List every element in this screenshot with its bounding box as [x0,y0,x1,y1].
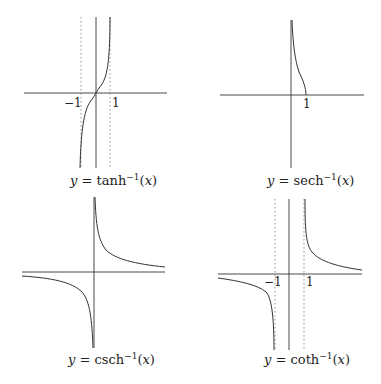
caption-tanh-inverse: y = tanh−1(x) [69,172,157,188]
csch-inverse-curve-positive [95,197,165,267]
panel-tanh-inverse: −1 1 y = tanh−1(x) [24,17,167,188]
panel-csch-inverse: y = csch−1(x) [22,197,165,367]
csch-inverse-curve-negative [22,276,93,348]
panel-sech-inverse: 1 y = sech−1(x) [220,20,364,188]
tanh-inverse-curve [80,17,110,168]
tick-label-neg-one: −1 [264,275,282,289]
tick-label-one: 1 [303,97,311,111]
coth-inverse-curve-positive [305,199,362,270]
tick-label-one: 1 [112,96,120,110]
tick-label-one: 1 [306,275,314,289]
inverse-hyperbolic-functions-figure: −1 1 y = tanh−1(x) 1 y = sech−1(x) y = c… [0,0,381,384]
caption-coth-inverse: y = coth−1(x) [263,351,350,367]
tick-label-neg-one: −1 [64,96,82,110]
caption-csch-inverse: y = csch−1(x) [67,351,155,367]
caption-sech-inverse: y = sech−1(x) [266,172,354,188]
panel-coth-inverse: −1 1 y = coth−1(x) [218,199,362,367]
sech-inverse-curve [292,20,306,95]
